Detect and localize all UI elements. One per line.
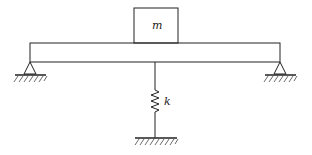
spring-label: k <box>164 95 171 108</box>
beam <box>30 43 280 62</box>
right-pin-support <box>264 62 297 82</box>
bottom-ground-hatch <box>135 139 178 145</box>
mass-label: m <box>152 19 162 32</box>
right-ground-hatch <box>264 76 297 82</box>
left-pin-support <box>14 62 47 82</box>
beam-spring-mass-diagram: m k <box>0 0 312 155</box>
mass-block: m <box>134 8 178 43</box>
spring: k <box>151 62 171 138</box>
bottom-ground <box>135 138 178 145</box>
left-ground-hatch <box>14 76 47 82</box>
